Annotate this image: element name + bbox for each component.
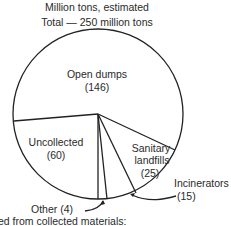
label-open-dumps: Open dumps: [67, 68, 127, 80]
incinerators-pointer: [132, 195, 176, 200]
footer-cut-text: ed from collected materials:: [0, 215, 126, 226]
other-pointer: [85, 201, 103, 211]
divider-landfills-incinerators: [98, 114, 136, 193]
label-incinerators: Incinerators: [174, 177, 229, 189]
value-incinerators: (15): [177, 190, 196, 202]
chart-subtitle: Total — 250 million tons: [41, 16, 152, 28]
value-open-dumps: (146): [85, 81, 110, 93]
divider-incinerators-other: [98, 114, 107, 199]
value-uncollected: (60): [47, 149, 66, 161]
label-landfills: landfills: [134, 154, 169, 166]
divider-uncollected-open-dumps: [14, 114, 98, 121]
label-uncollected: Uncollected: [29, 136, 84, 148]
pie-chart: Million tons, estimated Total — 250 mill…: [0, 0, 231, 226]
label-sanitary: Sanitary: [132, 142, 171, 154]
chart-title: Million tons, estimated: [45, 1, 149, 13]
label-other: Other (4): [31, 203, 73, 215]
value-landfills: (25): [141, 167, 160, 179]
